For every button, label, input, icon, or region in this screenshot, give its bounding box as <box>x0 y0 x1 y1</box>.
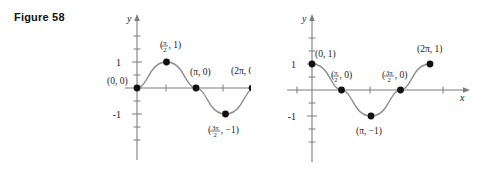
sine-plot-svg: y x 1 -1 (0, 0) ( π 2 , 1) (π, 0) ( 3π <box>0 0 251 174</box>
cosine-label-yintercept: (0, 1) <box>315 49 336 60</box>
cosine-y-tick-label-1: 1 <box>291 59 296 70</box>
sine-label-min-denominator: 2 <box>214 131 217 138</box>
cosine-label-threehalfpi-denominator: 2 <box>388 76 391 83</box>
sine-point-min <box>222 111 229 118</box>
sine-y-axis-label: y <box>126 13 132 24</box>
sine-label-origin: (0, 0) <box>107 76 128 87</box>
svg-text:, 1): , 1) <box>169 40 182 51</box>
sine-label-max-numerator: π <box>163 39 167 46</box>
cosine-label-halfpi: ( π 2 , 0) <box>331 69 352 83</box>
cosine-point-min <box>368 113 375 120</box>
cosine-point-halfpi <box>338 87 345 94</box>
sine-point-pi <box>193 85 200 92</box>
sine-point-origin <box>134 85 141 92</box>
svg-text:(: ( <box>208 125 211 136</box>
cosine-label-threehalfpi: ( 3π 2 , 0) <box>382 69 407 83</box>
cosine-y-tick-label-neg1: -1 <box>288 111 296 122</box>
cosine-point-threehalfpi <box>397 87 404 94</box>
sine-label-min: ( 3π 2 , −1) <box>208 124 239 138</box>
sine-plot: y x 1 -1 (0, 0) ( π 2 , 1) (π, 0) ( 3π <box>0 0 251 174</box>
svg-text:, −1): , −1) <box>221 125 239 136</box>
svg-text:, 0): , 0) <box>395 70 408 81</box>
sine-label-pi: (π, 0) <box>190 67 211 78</box>
cosine-y-axis-arrow <box>309 14 315 21</box>
sine-label-twopi: (2π, 0) <box>231 66 251 77</box>
cosine-label-halfpi-numerator: π <box>334 69 338 76</box>
sine-label-max-denominator: 2 <box>163 46 166 53</box>
cosine-point-yintercept <box>309 61 316 68</box>
svg-text:(: ( <box>382 70 385 81</box>
cosine-plot-svg: y x 1 -1 (0, 1) ( π 2 , 0) ( 3π 2 , 0) <box>251 0 502 174</box>
sine-y-tick-label-neg1: -1 <box>113 109 121 120</box>
cosine-label-threehalfpi-numerator: 3π <box>386 69 393 76</box>
sine-point-max <box>163 59 170 66</box>
cosine-y-axis-label: y <box>301 13 307 24</box>
cosine-label-min: (π, −1) <box>356 126 382 137</box>
figure-container: Figure 58 <box>0 0 502 174</box>
cosine-label-twopi: (2π, 1) <box>417 44 442 55</box>
sine-label-max: ( π 2 , 1) <box>160 39 181 53</box>
sine-label-min-numerator: 3π <box>212 124 219 131</box>
cosine-plot: y x 1 -1 (0, 1) ( π 2 , 0) ( 3π 2 , 0) <box>251 0 502 174</box>
cosine-point-twopi <box>427 61 434 68</box>
sine-y-tick-label-1: 1 <box>116 57 121 68</box>
svg-text:, 0): , 0) <box>340 70 353 81</box>
cosine-x-axis-label: x <box>459 92 465 103</box>
cosine-label-halfpi-denominator: 2 <box>334 76 337 83</box>
sine-y-axis-arrow <box>134 14 140 21</box>
